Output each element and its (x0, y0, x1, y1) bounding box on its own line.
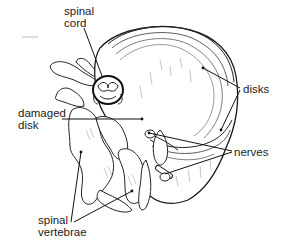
label-damaged-disk-line2: disk (18, 119, 66, 131)
label-spinal-vertebrae-line1: spinal (38, 214, 87, 226)
label-spinal-cord: spinal cord (64, 5, 94, 29)
label-spinal-cord-line1: spinal (64, 5, 94, 17)
label-spinal-vertebrae: spinal vertebrae (38, 214, 87, 238)
label-disks: disks (243, 83, 269, 95)
spinal-cord (93, 76, 123, 104)
label-nerves: nerves (234, 146, 269, 158)
leader-vertebra-left (71, 152, 81, 222)
diagram-canvas: spinal cord disks damaged disk nerves sp… (0, 0, 284, 250)
label-damaged-disk: damaged disk (18, 107, 66, 131)
label-spinal-cord-line2: cord (64, 17, 94, 29)
label-spinal-vertebrae-line2: vertebrae (38, 226, 87, 238)
transverse-processes (50, 58, 98, 106)
label-damaged-disk-line1: damaged (18, 107, 66, 119)
